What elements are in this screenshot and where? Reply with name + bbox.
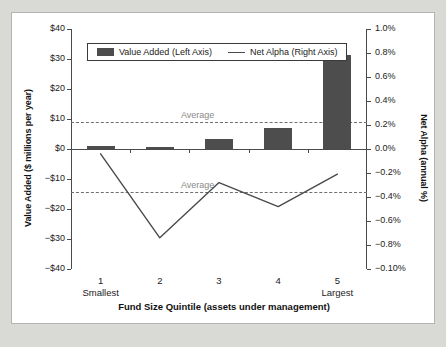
legend-item-value-added: Value Added (Left Axis) <box>97 47 212 57</box>
legend-item-net-alpha: Net Alpha (Right Axis) <box>228 47 338 57</box>
y-axis-left-tick-label: $40 <box>19 24 65 33</box>
x-axis-category-label: 2 <box>130 275 190 286</box>
line-series-net-alpha <box>71 29 367 269</box>
y-axis-right-tick <box>367 101 371 102</box>
x-axis-title: Fund Size Quintile (assets under managem… <box>12 301 436 312</box>
bar-swatch-icon <box>97 48 114 56</box>
y-axis-right-tick <box>367 245 371 246</box>
y-axis-right-tick <box>367 221 371 222</box>
y-axis-right-tick-label: 0.4% <box>375 96 427 105</box>
y-axis-left-tick-label: $30 <box>19 54 65 63</box>
y-axis-right-tick <box>367 125 371 126</box>
y-axis-left-tick <box>67 269 71 270</box>
y-axis-right-tick <box>367 173 371 174</box>
y-axis-left-tick-label: −$30 <box>19 234 65 243</box>
chart-card: Value Added ($ millions per year) Net Al… <box>11 12 435 324</box>
x-axis-category-subnote: Smallest <box>61 287 141 298</box>
plot-area: $40$30$20$10$0−$10−$20−$30−$40 1.0%0.8%0… <box>71 29 367 269</box>
x-axis-category-label: 3 <box>189 275 249 286</box>
x-axis-category-label: 4 <box>248 275 308 286</box>
y-axis-right-tick-label: 0.0% <box>375 144 427 153</box>
x-axis-category-subnote: Largest <box>297 287 377 298</box>
legend-label-value-added: Value Added (Left Axis) <box>119 47 212 57</box>
y-axis-right-tick <box>367 197 371 198</box>
y-axis-right-tick-label: 0.6% <box>375 72 427 81</box>
y-axis-left-tick-label: $0 <box>19 144 65 153</box>
chart-legend: Value Added (Left Axis) Net Alpha (Right… <box>87 43 347 61</box>
y-axis-right-tick-label: 0.2% <box>375 120 427 129</box>
y-axis-right-tick-label: −0.10% <box>375 264 427 273</box>
x-axis-category-label: 1 <box>71 275 131 286</box>
y-axis-right-tick <box>367 53 371 54</box>
y-axis-left-tick-label: −$10 <box>19 174 65 183</box>
y-axis-right-tick-label: 0.8% <box>375 48 427 57</box>
y-axis-right-tick <box>367 149 371 150</box>
y-axis-left-tick-label: $20 <box>19 84 65 93</box>
legend-label-net-alpha: Net Alpha (Right Axis) <box>250 47 338 57</box>
y-axis-right-tick <box>367 269 371 270</box>
y-axis-left-tick-label: $10 <box>19 114 65 123</box>
y-axis-right-tick-label: −0.4% <box>375 192 427 201</box>
y-axis-left-tick-label: −$40 <box>19 264 65 273</box>
y-axis-left-tick-label: −$20 <box>19 204 65 213</box>
y-axis-right-tick <box>367 29 371 30</box>
y-axis-right-tick-label: −0.8% <box>375 240 427 249</box>
y-axis-right-tick-label: −0.6% <box>375 216 427 225</box>
y-axis-right-tick <box>367 77 371 78</box>
y-axis-right-tick-label: −0.2% <box>375 168 427 177</box>
line-swatch-icon <box>228 52 245 53</box>
y-axis-right-tick-label: 1.0% <box>375 24 427 33</box>
x-axis-category-label: 5 <box>307 275 367 286</box>
